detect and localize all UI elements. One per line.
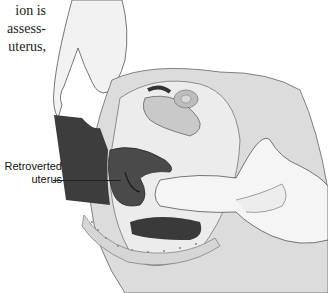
retroverted-uterus-label: Retroverted uterus (4, 160, 62, 186)
label-line-1: Retroverted (4, 160, 62, 173)
pelvic-exam-illustration (0, 0, 328, 293)
label-leader-line (53, 180, 121, 181)
